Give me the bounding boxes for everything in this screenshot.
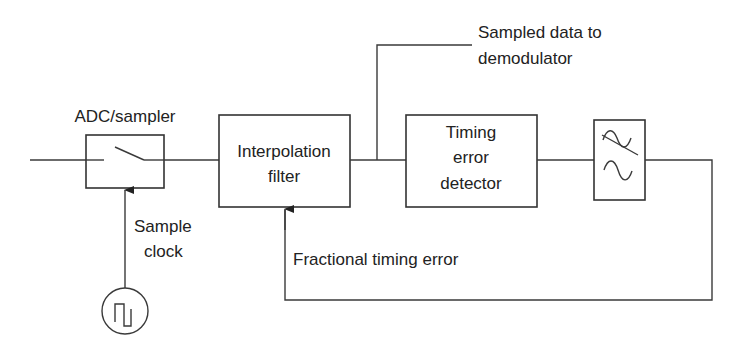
loop-filter-block — [594, 120, 645, 200]
interpolation-filter-block: Interpolation filter — [219, 115, 350, 207]
sample-clock-label-line1: Sample — [134, 217, 192, 236]
interpolation-filter-label-line2: filter — [268, 167, 300, 186]
timing-recovery-diagram: ADC/sampler Sample clock Interpolation f… — [0, 0, 730, 340]
timing-error-detector-block: Timing error detector — [406, 115, 537, 207]
sampled-data-label-line2: demodulator — [478, 49, 573, 68]
square-wave-clock-icon — [102, 288, 148, 334]
sample-clock-label-line2: clock — [144, 242, 183, 261]
fractional-timing-error-label: Fractional timing error — [293, 250, 459, 269]
sampled-data-label-line1: Sampled data to — [478, 23, 602, 42]
interpolation-filter-label-line1: Interpolation — [237, 142, 331, 161]
ted-label-line3: detector — [440, 174, 502, 193]
ted-label-line2: error — [453, 148, 489, 167]
ted-label-line1: Timing — [446, 123, 496, 142]
adc-sampler-block — [86, 135, 164, 188]
adc-sampler-label: ADC/sampler — [74, 107, 175, 126]
